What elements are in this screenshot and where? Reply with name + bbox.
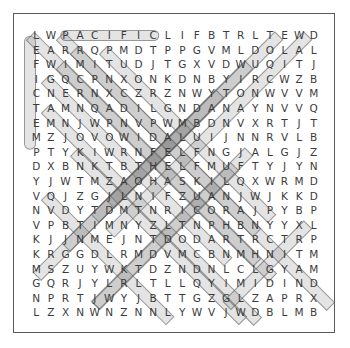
grid-cell[interactable]: W: [58, 174, 73, 189]
grid-cell[interactable]: F: [190, 145, 205, 160]
grid-cell[interactable]: N: [219, 116, 234, 131]
grid-cell[interactable]: T: [102, 57, 117, 72]
grid-cell[interactable]: L: [175, 145, 190, 160]
grid-cell[interactable]: O: [73, 130, 88, 145]
grid-cell[interactable]: U: [117, 57, 132, 72]
grid-cell[interactable]: B: [190, 116, 205, 131]
grid-cell[interactable]: N: [87, 86, 102, 101]
grid-cell[interactable]: F: [160, 189, 175, 204]
grid-cell[interactable]: Q: [306, 101, 321, 116]
grid-cell[interactable]: W: [87, 305, 102, 320]
grid-cell[interactable]: M: [306, 86, 321, 101]
grid-cell[interactable]: T: [131, 262, 146, 277]
grid-cell[interactable]: G: [87, 189, 102, 204]
grid-cell[interactable]: P: [87, 72, 102, 87]
grid-cell[interactable]: J: [306, 57, 321, 72]
grid-cell[interactable]: N: [219, 247, 234, 262]
grid-cell[interactable]: N: [73, 305, 88, 320]
grid-cell[interactable]: P: [306, 203, 321, 218]
grid-cell[interactable]: I: [58, 57, 73, 72]
grid-cell[interactable]: J: [233, 189, 248, 204]
grid-cell[interactable]: D: [190, 262, 205, 277]
grid-cell[interactable]: D: [58, 203, 73, 218]
grid-cell[interactable]: I: [146, 189, 161, 204]
grid-cell[interactable]: X: [102, 86, 117, 101]
grid-cell[interactable]: Z: [73, 189, 88, 204]
grid-cell[interactable]: N: [117, 218, 132, 233]
grid-cell[interactable]: I: [102, 28, 117, 43]
grid-cell[interactable]: Z: [292, 72, 307, 87]
grid-cell[interactable]: M: [175, 116, 190, 131]
grid-cell[interactable]: J: [219, 305, 234, 320]
grid-cell[interactable]: A: [204, 232, 219, 247]
grid-cell[interactable]: C: [146, 28, 161, 43]
grid-cell[interactable]: J: [248, 203, 263, 218]
grid-cell[interactable]: J: [58, 130, 73, 145]
grid-cell[interactable]: V: [204, 305, 219, 320]
grid-cell[interactable]: G: [219, 145, 234, 160]
grid-cell[interactable]: I: [277, 57, 292, 72]
grid-cell[interactable]: L: [219, 262, 234, 277]
grid-cell[interactable]: B: [306, 130, 321, 145]
grid-cell[interactable]: L: [160, 218, 175, 233]
grid-cell[interactable]: W: [190, 305, 205, 320]
grid-cell[interactable]: L: [131, 276, 146, 291]
grid-cell[interactable]: T: [277, 116, 292, 131]
grid-cell[interactable]: Q: [58, 72, 73, 87]
grid-cell[interactable]: R: [146, 86, 161, 101]
grid-cell[interactable]: B: [292, 203, 307, 218]
grid-cell[interactable]: I: [175, 28, 190, 43]
grid-cell[interactable]: M: [175, 247, 190, 262]
grid-cell[interactable]: T: [175, 291, 190, 306]
grid-cell[interactable]: T: [263, 28, 278, 43]
grid-cell[interactable]: A: [292, 262, 307, 277]
grid-cell[interactable]: N: [175, 262, 190, 277]
grid-cell[interactable]: D: [263, 276, 278, 291]
grid-cell[interactable]: W: [117, 130, 132, 145]
grid-cell[interactable]: I: [87, 145, 102, 160]
grid-cell[interactable]: W: [277, 72, 292, 87]
grid-cell[interactable]: V: [204, 43, 219, 58]
grid-cell[interactable]: P: [102, 116, 117, 131]
grid-cell[interactable]: Z: [44, 130, 59, 145]
grid-cell[interactable]: R: [248, 72, 263, 87]
grid-cell[interactable]: B: [233, 218, 248, 233]
grid-cell[interactable]: Z: [131, 86, 146, 101]
grid-cell[interactable]: N: [102, 305, 117, 320]
grid-cell[interactable]: W: [248, 189, 263, 204]
grid-cell[interactable]: L: [160, 28, 175, 43]
grid-cell[interactable]: D: [87, 247, 102, 262]
grid-cell[interactable]: G: [29, 276, 44, 291]
grid-cell[interactable]: R: [233, 28, 248, 43]
grid-cell[interactable]: J: [131, 291, 146, 306]
grid-cell[interactable]: D: [117, 101, 132, 116]
grid-cell[interactable]: G: [190, 43, 205, 58]
grid-cell[interactable]: I: [233, 72, 248, 87]
grid-cell[interactable]: R: [263, 116, 278, 131]
grid-cell[interactable]: T: [175, 218, 190, 233]
grid-cell[interactable]: W: [160, 116, 175, 131]
grid-cell[interactable]: W: [44, 28, 59, 43]
grid-cell[interactable]: V: [29, 218, 44, 233]
grid-cell[interactable]: C: [73, 72, 88, 87]
grid-cell[interactable]: Y: [175, 305, 190, 320]
grid-cell[interactable]: L: [306, 218, 321, 233]
grid-cell[interactable]: Q: [87, 43, 102, 58]
grid-cell[interactable]: A: [204, 101, 219, 116]
grid-cell[interactable]: M: [73, 57, 88, 72]
grid-cell[interactable]: Y: [29, 174, 44, 189]
grid-cell[interactable]: M: [306, 247, 321, 262]
grid-cell[interactable]: L: [29, 305, 44, 320]
grid-cell[interactable]: P: [58, 28, 73, 43]
grid-cell[interactable]: A: [44, 43, 59, 58]
grid-cell[interactable]: D: [306, 276, 321, 291]
grid-cell[interactable]: J: [277, 159, 292, 174]
grid-cell[interactable]: K: [29, 247, 44, 262]
grid-cell[interactable]: M: [233, 247, 248, 262]
grid-cell[interactable]: U: [219, 159, 234, 174]
grid-cell[interactable]: T: [306, 116, 321, 131]
grid-cell[interactable]: D: [102, 203, 117, 218]
grid-cell[interactable]: T: [73, 291, 88, 306]
grid-cell[interactable]: L: [29, 28, 44, 43]
grid-cell[interactable]: P: [263, 203, 278, 218]
